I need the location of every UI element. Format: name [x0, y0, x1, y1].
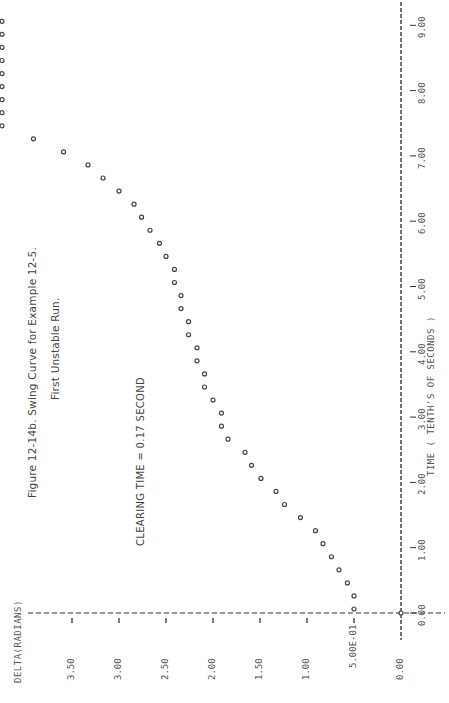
data-point [0, 111, 4, 115]
data-point [352, 594, 356, 598]
data-point [31, 137, 35, 141]
x-tick-label: 8.00 [417, 82, 427, 104]
figure-caption-line1: Figure 12-14b. Swing Curve for Example 1… [26, 247, 38, 498]
data-point [329, 555, 333, 559]
data-point [195, 359, 199, 363]
data-point [132, 202, 136, 206]
x-tick-label: 7.00 [417, 147, 427, 169]
data-point [0, 32, 4, 36]
clearing-time-annotation: CLEARING TIME = 0.17 SECOND [135, 377, 146, 546]
data-point [226, 437, 230, 441]
x-tick-label: 5.00 [417, 278, 427, 300]
data-point [148, 228, 152, 232]
x-tick-label: 2.00 [417, 474, 427, 496]
data-point [321, 542, 325, 546]
y-tick-label: 2.50 [160, 658, 170, 680]
data-point [164, 254, 168, 258]
data-point [179, 307, 183, 311]
data-point [298, 516, 302, 520]
figure-caption-line2: First Unstable Run. [49, 298, 61, 400]
x-tick-label: 1.00 [417, 539, 427, 561]
y-tick-label: 1.50 [254, 658, 264, 680]
data-point [140, 215, 144, 219]
data-point [282, 503, 286, 507]
data-point [211, 398, 215, 402]
x-tick-label: 9.00 [417, 17, 427, 39]
data-point [101, 176, 105, 180]
y-tick-label: 1.00 [301, 658, 311, 680]
data-point [117, 189, 121, 193]
data-point [62, 150, 66, 154]
y-axis-title: DELTA(RADIANS) [13, 600, 23, 683]
data-point [187, 333, 191, 337]
data-point [259, 476, 263, 480]
data-point [203, 372, 207, 376]
y-tick-label: 0.00 [395, 658, 405, 680]
y-tick-label: 5.00E-01 [348, 625, 358, 668]
data-point [352, 607, 356, 611]
x-tick-label: 3.00 [417, 408, 427, 430]
data-point [0, 85, 4, 89]
y-tick-label: 3.00 [113, 658, 123, 680]
x-tick-label: 6.00 [417, 213, 427, 235]
data-point [187, 320, 191, 324]
data-point [250, 463, 254, 467]
data-point [172, 281, 176, 285]
data-point [179, 294, 183, 298]
x-tick-label: 4.00 [417, 343, 427, 365]
x-axis-title: TIME ( TENTH'S OF SECONDS ) [426, 316, 436, 476]
data-point [243, 450, 247, 454]
swing-curve-chart [0, 0, 449, 703]
data-point [313, 529, 317, 533]
data-point [172, 267, 176, 271]
data-point [0, 19, 4, 23]
data-point [345, 581, 349, 585]
data-point [399, 611, 403, 615]
data-point [0, 72, 4, 76]
data-point [219, 411, 223, 415]
data-point [274, 489, 278, 493]
data-point [157, 241, 161, 245]
data-point [0, 124, 4, 128]
data-point [86, 163, 90, 167]
y-tick-label: 2.00 [207, 658, 217, 680]
data-point [195, 346, 199, 350]
x-tick-label: 0.00 [417, 604, 427, 626]
data-point [0, 58, 4, 62]
y-tick-label: 3.50 [66, 658, 76, 680]
data-point [337, 568, 341, 572]
data-point [203, 385, 207, 389]
data-point [0, 98, 4, 102]
axes [28, 2, 445, 640]
data-point [219, 424, 223, 428]
data-point [0, 45, 4, 49]
